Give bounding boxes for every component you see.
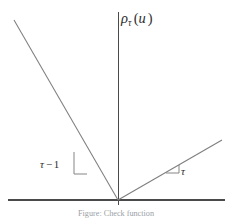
tau-subscript: τ — [128, 18, 132, 28]
caption-strip: Figure: Check function — [0, 210, 232, 218]
negative-branch-line — [14, 20, 118, 200]
close-paren: ) — [148, 10, 153, 26]
slope-label-positive-branch: τ — [181, 166, 185, 177]
figure-caption: Figure: Check function — [78, 210, 154, 218]
slope-value-one: 1 — [54, 158, 60, 170]
positive-branch-line — [118, 140, 222, 200]
rho-symbol: ρ — [121, 10, 128, 26]
y-axis-label: ρτ(u) — [121, 11, 153, 28]
argument-u: u — [139, 10, 146, 26]
tau-symbol-left: τ — [40, 158, 44, 170]
minus-operator: − — [46, 158, 52, 170]
slope-label-negative-branch: τ−1 — [40, 159, 59, 170]
slope-triangle-left-icon — [74, 152, 87, 174]
plot-canvas — [0, 0, 232, 218]
check-function-figure: ρτ(u) τ−1 τ Figure: Check function — [0, 0, 232, 218]
